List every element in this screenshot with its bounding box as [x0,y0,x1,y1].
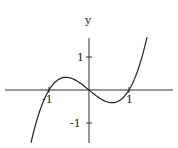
y-tick-label-1: 1 [77,51,84,64]
x-tick-label-neg1: -1 [42,93,53,106]
y-axis-label: y [84,14,92,27]
x-tick-label-1: 1 [126,93,133,106]
plot-canvas: y 1 -1 -1 1 [0,0,178,148]
y-tick-label-neg1: -1 [70,117,81,130]
